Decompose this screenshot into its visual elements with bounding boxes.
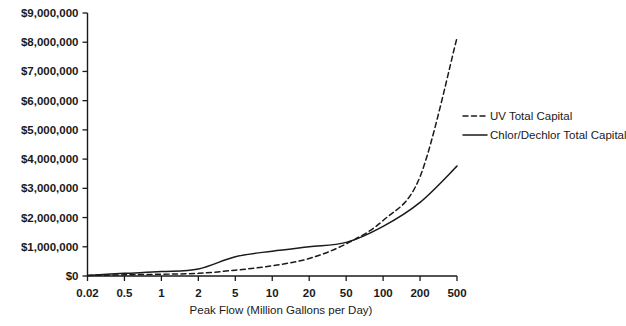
- x-axis-tick-label: 2: [195, 287, 201, 299]
- x-axis-tick-label: 50: [340, 287, 353, 299]
- y-axis-tick-label: $3,000,000: [21, 182, 79, 194]
- chart-legend: UV Total Capital Chlor/Dechlor Total Cap…: [463, 110, 626, 141]
- x-axis-tick-label: 100: [374, 287, 393, 299]
- y-axis-tick-labels: $0$1,000,000$2,000,000$3,000,000$4,000,0…: [21, 7, 79, 282]
- x-axis-tick-label: 500: [447, 287, 466, 299]
- chart-page: $0$1,000,000$2,000,000$3,000,000$4,000,0…: [0, 0, 626, 326]
- x-axis-tick-label: 1: [158, 287, 165, 299]
- y-axis-tick-label: $0: [66, 270, 79, 282]
- y-axis-tick-label: $9,000,000: [21, 7, 79, 19]
- x-axis-tick-marks: [88, 276, 458, 281]
- x-axis-tick-label: 0.02: [76, 287, 98, 299]
- x-axis-title: Peak Flow (Million Gallons per Day): [190, 304, 373, 316]
- y-axis-tick-label: $1,000,000: [21, 241, 79, 253]
- y-axis-tick-marks: [83, 13, 88, 276]
- y-axis-tick-label: $4,000,000: [21, 153, 79, 165]
- line-chart: $0$1,000,000$2,000,000$3,000,000$4,000,0…: [0, 0, 626, 326]
- x-axis-tick-label: 20: [303, 287, 316, 299]
- y-axis-tick-label: $8,000,000: [21, 36, 79, 48]
- y-axis-tick-label: $7,000,000: [21, 65, 79, 77]
- x-axis-tick-labels: 0.020.5125102050100200500: [76, 287, 466, 299]
- legend-label-uv-total-capital: UV Total Capital: [490, 110, 572, 122]
- y-axis-tick-label: $2,000,000: [21, 212, 79, 224]
- y-axis-tick-label: $5,000,000: [21, 124, 79, 136]
- x-axis-tick-label: 5: [232, 287, 239, 299]
- x-axis-tick-label: 200: [410, 287, 429, 299]
- series-line-chlor-dechlor-total-capital: [88, 166, 458, 275]
- x-axis-tick-label: 10: [266, 287, 279, 299]
- x-axis-tick-label: 0.5: [116, 287, 133, 299]
- y-axis-tick-label: $6,000,000: [21, 95, 79, 107]
- legend-label-chlor-dechlor-total-capital: Chlor/Dechlor Total Capital: [490, 129, 626, 141]
- series-line-uv-total-capital: [88, 38, 458, 276]
